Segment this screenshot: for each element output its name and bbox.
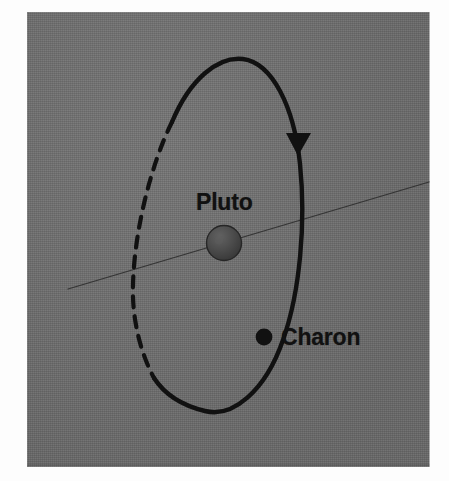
pluto-label: Pluto — [196, 189, 253, 216]
orbit-direction-arrow-icon — [286, 133, 311, 156]
orbit-path-dashed-far-side — [133, 122, 172, 378]
figure-root: Pluto Charon — [0, 0, 449, 481]
diagram-artwork — [0, 0, 449, 481]
pluto-sphere-speckle — [215, 236, 224, 245]
charon-dot — [256, 329, 273, 346]
pluto-sphere — [207, 226, 242, 261]
charon-label: Charon — [281, 324, 360, 351]
